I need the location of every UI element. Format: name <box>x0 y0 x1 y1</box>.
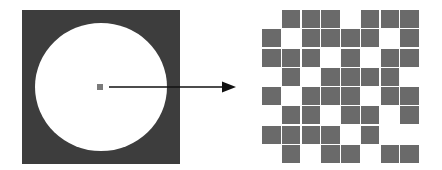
grid-cell <box>341 29 360 47</box>
grid-cell <box>361 106 380 124</box>
grid-cell <box>361 10 380 28</box>
grid-cell <box>341 106 360 124</box>
grid-cell <box>361 29 380 47</box>
grid-cell <box>381 87 400 105</box>
grid-cell <box>282 145 301 163</box>
grid-cell <box>262 29 281 47</box>
grid-cell <box>282 49 301 67</box>
grid-cell <box>400 145 419 163</box>
grid-cell <box>381 68 400 86</box>
grid-cell <box>400 29 419 47</box>
grid-cell <box>361 126 380 144</box>
grid-cell <box>321 87 340 105</box>
grid-cell <box>262 87 281 105</box>
grid-cell <box>282 126 301 144</box>
grid-cell <box>321 10 340 28</box>
grid-cell <box>341 68 360 86</box>
grid-cell <box>302 29 321 47</box>
grid-cell <box>262 49 281 67</box>
grid-cell <box>321 68 340 86</box>
grid-cell <box>400 10 419 28</box>
grid-cell <box>400 106 419 124</box>
grid-cell <box>361 68 380 86</box>
grid-cell <box>381 49 400 67</box>
grid-cell <box>302 106 321 124</box>
grid-cell <box>341 145 360 163</box>
grid-cell <box>302 10 321 28</box>
grid-cell <box>321 145 340 163</box>
grid-cell <box>282 10 301 28</box>
grid-cell <box>262 126 281 144</box>
grid-cell <box>282 68 301 86</box>
grid-cell <box>381 145 400 163</box>
grid-cell <box>341 49 360 67</box>
grid-cell <box>302 87 321 105</box>
grid-cell <box>282 106 301 124</box>
grid-cell <box>302 49 321 67</box>
grid-cell <box>400 49 419 67</box>
grid-cell <box>381 10 400 28</box>
grid-cell <box>302 126 321 144</box>
grid-cell <box>321 29 340 47</box>
grid-cell <box>400 87 419 105</box>
diagram <box>0 0 442 170</box>
grid-cell <box>341 87 360 105</box>
pixel-grid <box>262 10 420 164</box>
grid-cell <box>321 126 340 144</box>
